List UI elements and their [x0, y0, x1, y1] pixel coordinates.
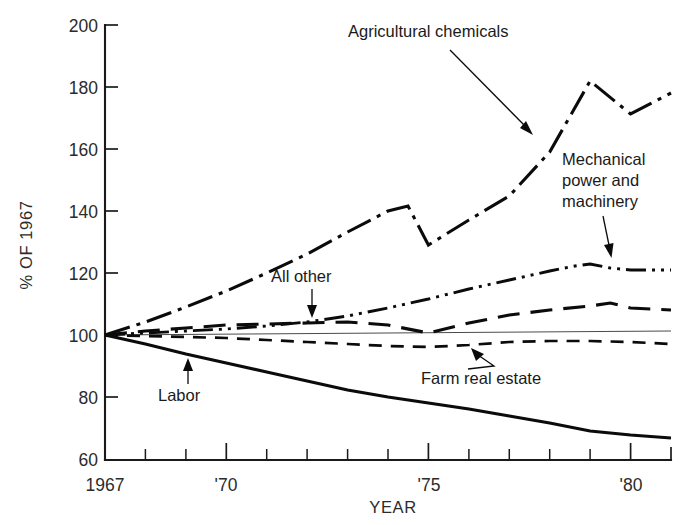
- y-tick-group: [105, 87, 118, 397]
- leader-arrow-farm-real-estate: [471, 348, 484, 361]
- annotation-label-mechanical-line3: machinery: [562, 192, 639, 210]
- line-chart: 200 180 160 140 120 100 80 60: [0, 0, 695, 525]
- annotation-farm-real-estate: Farm real estate: [421, 348, 541, 387]
- x-tick-labels: 1967 '70 '75 '80: [86, 475, 643, 495]
- x-label-1975: '75: [418, 475, 441, 495]
- annotation-label-all-other: All other: [271, 267, 332, 285]
- x-label-1980: '80: [620, 475, 643, 495]
- series-all-other: [105, 303, 671, 335]
- leader-arrow-mechanical: [604, 243, 614, 258]
- y-label-200: 200: [69, 16, 98, 36]
- y-label-140: 140: [69, 202, 98, 222]
- y-label-180: 180: [69, 78, 98, 98]
- annotation-label-mechanical-line1: Mechanical: [562, 150, 645, 168]
- x-label-1970: '70: [215, 475, 238, 495]
- x-axis-title: YEAR: [369, 498, 416, 516]
- annotation-label-mechanical-line2: power and: [562, 171, 639, 189]
- leader-line-farm-real-estate: [468, 355, 494, 369]
- chart-container: 200 180 160 140 120 100 80 60: [0, 0, 695, 525]
- annotation-all-other: All other: [271, 267, 332, 318]
- y-label-100: 100: [69, 326, 98, 346]
- x-label-1967: 1967: [86, 475, 125, 495]
- series-farm-real-estate: [105, 335, 671, 347]
- annotation-labor: Labor: [158, 358, 201, 404]
- reference-line-100: [105, 331, 671, 335]
- leader-arrow-labor: [183, 358, 193, 371]
- annotation-label-farm-real-estate: Farm real estate: [421, 369, 541, 387]
- annotation-label-agricultural-chemicals: Agricultural chemicals: [348, 22, 508, 40]
- y-label-80: 80: [79, 388, 99, 408]
- annotation-label-labor: Labor: [158, 386, 201, 404]
- y-label-160: 160: [69, 140, 98, 160]
- leader-line-agricultural-chemicals: [450, 50, 528, 129]
- y-axis-title: % OF 1967: [17, 201, 35, 290]
- leader-arrow-all-other: [307, 305, 317, 318]
- annotation-mechanical-power-machinery: Mechanical power and machinery: [562, 150, 645, 258]
- y-label-120: 120: [69, 264, 98, 284]
- y-tick-labels: 200 180 160 140 120 100 80 60: [69, 16, 98, 470]
- annotation-agricultural-chemicals: Agricultural chemicals: [348, 22, 533, 135]
- x-tick-group: [145, 443, 630, 460]
- y-label-60: 60: [79, 450, 99, 470]
